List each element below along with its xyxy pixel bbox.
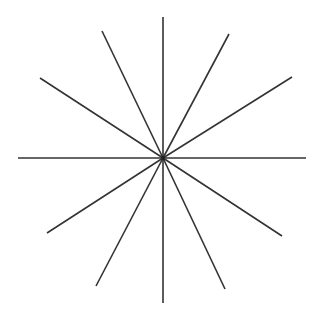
center-point <box>161 156 165 160</box>
radial-star-diagram <box>0 0 319 310</box>
